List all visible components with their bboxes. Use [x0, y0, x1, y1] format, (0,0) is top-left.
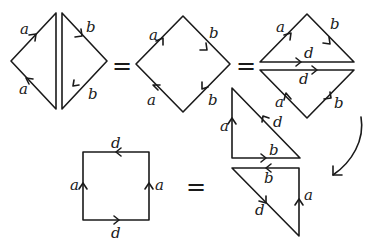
label-b: b [264, 169, 274, 187]
figure-diamond: a a b b [136, 16, 230, 112]
label-a: a [19, 80, 28, 98]
diagram-canvas: a a b b = a a b b = a b d d a b [0, 0, 372, 246]
label-a: a [20, 20, 29, 38]
arrow-down-right-icon [323, 37, 330, 44]
label-b: b [334, 94, 344, 112]
label-a: a [275, 93, 284, 111]
label-b: b [208, 91, 218, 109]
left-triangle [11, 13, 56, 109]
right-triangle [62, 13, 107, 109]
label-a: a [149, 26, 158, 44]
label-b: b [269, 141, 279, 159]
label-b: b [209, 24, 219, 42]
label-a: a [70, 176, 79, 194]
equals-sign: = [236, 52, 256, 80]
label-a: a [155, 176, 164, 194]
equals-sign: = [112, 52, 132, 80]
label-a: a [220, 117, 229, 135]
label-a: a [276, 18, 285, 36]
arrow-down-left-icon [73, 80, 79, 86]
label-d: d [111, 224, 121, 242]
label-d: d [273, 113, 283, 131]
figure-cut-diamond: a b d d a b [260, 14, 354, 118]
label-d: d [299, 70, 309, 88]
square-shape [83, 152, 149, 220]
label-d: d [111, 134, 121, 152]
figure-split-triangles: a a b b [11, 13, 107, 109]
label-a: a [147, 91, 156, 109]
label-d: d [255, 201, 265, 219]
label-d: d [304, 44, 314, 62]
label-a: a [304, 186, 313, 204]
arrow-down-right-icon [200, 43, 207, 50]
label-b: b [86, 18, 96, 36]
equals-sign: = [186, 173, 206, 201]
label-b: b [88, 85, 98, 103]
arrow-down-left-icon [324, 92, 331, 99]
figure-square: d d a a [70, 134, 164, 242]
arrow-down-left-icon [202, 82, 208, 89]
label-b: b [330, 15, 340, 33]
rotate-flip-arrow-icon [333, 117, 362, 175]
